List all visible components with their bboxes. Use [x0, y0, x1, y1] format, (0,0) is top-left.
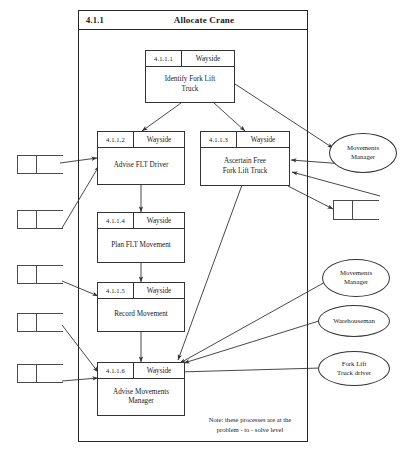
- entity-label-line1: Movements: [347, 144, 379, 153]
- entity-movements-manager-mid[interactable]: Movements Manager: [322, 259, 390, 297]
- process-box-4-1-1-2[interactable]: 4.1.1.2 Wayside Advise FLT Driver: [97, 131, 185, 185]
- process-name-line1: Advise FLT Driver: [114, 161, 169, 170]
- process-name: Advise Movements Manager: [98, 379, 184, 415]
- data-store-id-cell: [17, 364, 37, 383]
- process-name-line2: Manager: [113, 397, 169, 406]
- process-name: Plan FLT Movement: [98, 229, 184, 262]
- data-store-id-cell: [17, 265, 37, 284]
- process-name: Advise FLT Driver: [98, 148, 184, 184]
- process-header: 4.1.1.3 Wayside: [201, 132, 289, 148]
- data-store-bottom-bar: [36, 283, 63, 284]
- data-store-id-cell: [17, 313, 37, 332]
- entity-fork-lift-truck-driver[interactable]: Fork Lift Truck driver: [318, 351, 390, 386]
- process-name-line1: Record Movement: [114, 310, 168, 319]
- process-actor: Wayside: [134, 132, 184, 147]
- diagram-canvas: 4.1.1 Allocate Crane: [0, 0, 403, 452]
- process-box-4-1-1-4[interactable]: 4.1.1.4 Wayside Plan FLT Movement: [97, 212, 185, 263]
- frame-title-label: Allocate Crane: [125, 15, 307, 25]
- process-number: 4.1.1.1: [146, 51, 182, 66]
- frame-id-label: 4.1.1: [79, 15, 125, 25]
- process-name-line2: Truck: [165, 85, 216, 94]
- process-box-4-1-1-6[interactable]: 4.1.1.6 Wayside Advise Movements Manager: [97, 362, 185, 416]
- process-header: 4.1.1.5 Wayside: [98, 283, 184, 299]
- process-header: 4.1.1.4 Wayside: [98, 213, 184, 229]
- process-name-line1: Identify Fork Lift: [165, 75, 216, 84]
- entity-warehouseman[interactable]: Warehouseman: [318, 305, 390, 337]
- data-store-top-bar: [36, 210, 63, 211]
- entity-label-line2: Truck driver: [337, 369, 371, 378]
- note-line-1: Note: these processes are at the: [196, 415, 304, 425]
- process-number: 4.1.1.4: [98, 213, 134, 228]
- data-store-id-cell: [17, 155, 37, 174]
- data-store-bottom-bar: [352, 219, 379, 220]
- entity-label-line2: Manager: [347, 153, 379, 162]
- process-header: 4.1.1.1 Wayside: [146, 51, 234, 67]
- note-line-2: problem - to - solve level: [196, 425, 304, 435]
- data-store-left-3[interactable]: [17, 265, 63, 284]
- process-actor: Wayside: [134, 283, 184, 298]
- entity-label-line1: Movements: [340, 269, 372, 278]
- data-store-top-bar: [36, 155, 63, 156]
- process-actor: Wayside: [182, 51, 234, 66]
- entity-label-line1: Warehouseman: [333, 317, 375, 326]
- data-store-left-1[interactable]: [17, 155, 63, 174]
- data-store-top-bar: [352, 200, 379, 201]
- process-number: 4.1.1.6: [98, 363, 134, 378]
- entity-movements-manager-top[interactable]: Movements Manager: [329, 133, 397, 173]
- data-store-top-bar: [36, 364, 63, 365]
- data-store-bottom-bar: [36, 228, 63, 229]
- data-store-bottom-bar: [36, 173, 63, 174]
- data-store-top-bar: [36, 313, 63, 314]
- data-store-left-4[interactable]: [17, 313, 63, 332]
- process-name-line1: Plan FLT Movement: [111, 241, 171, 250]
- data-store-bottom-bar: [36, 331, 63, 332]
- process-box-4-1-1-5[interactable]: 4.1.1.5 Wayside Record Movement: [97, 282, 185, 332]
- entity-label-line2: Manager: [340, 278, 372, 287]
- data-store-left-5[interactable]: [17, 364, 63, 383]
- process-number: 4.1.1.2: [98, 132, 134, 147]
- process-number: 4.1.1.3: [201, 132, 237, 147]
- data-store-bottom-bar: [36, 382, 63, 383]
- process-name-line1: Advise Movements: [113, 388, 169, 397]
- data-store-left-2[interactable]: [17, 210, 63, 229]
- data-store-id-cell: [17, 210, 37, 229]
- process-number: 4.1.1.5: [98, 283, 134, 298]
- process-header: 4.1.1.2 Wayside: [98, 132, 184, 148]
- process-name-line2: Fork Lift Truck: [223, 167, 268, 176]
- process-name: Record Movement: [98, 299, 184, 331]
- data-store-id-cell: [333, 200, 353, 220]
- process-header: 4.1.1.6 Wayside: [98, 363, 184, 379]
- process-name: Ascertain Free Fork Lift Truck: [201, 148, 289, 185]
- data-store-top-bar: [36, 265, 63, 266]
- data-store-right-1[interactable]: [333, 200, 379, 220]
- process-actor: Wayside: [237, 132, 289, 147]
- process-actor: Wayside: [134, 363, 184, 378]
- entity-label-line1: Fork Lift: [337, 360, 371, 369]
- process-name-line1: Ascertain Free: [223, 157, 268, 166]
- diagram-note: Note: these processes are at the problem…: [196, 415, 304, 434]
- process-actor: Wayside: [134, 213, 184, 228]
- process-box-4-1-1-1[interactable]: 4.1.1.1 Wayside Identify Fork Lift Truck: [145, 50, 235, 103]
- diagram-frame-header: 4.1.1 Allocate Crane: [78, 10, 308, 30]
- process-box-4-1-1-3[interactable]: 4.1.1.3 Wayside Ascertain Free Fork Lift…: [200, 131, 290, 186]
- process-name: Identify Fork Lift Truck: [146, 67, 234, 102]
